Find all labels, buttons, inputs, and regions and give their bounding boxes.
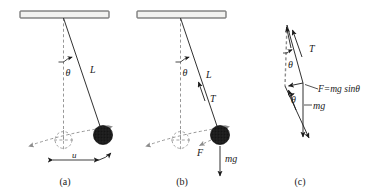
length-label-b: L bbox=[205, 69, 212, 80]
pendulum-bob-a bbox=[93, 125, 112, 144]
panel-caption-b: (b) bbox=[176, 176, 188, 188]
pendulum-bob-b bbox=[210, 125, 229, 144]
ceiling-support-b bbox=[137, 11, 226, 18]
restoring-force-label-b: F bbox=[196, 147, 204, 158]
swing-arc-arrow-left-a bbox=[29, 145, 33, 146]
angle-arc-b bbox=[181, 57, 190, 62]
panel-caption-a: (a) bbox=[59, 176, 70, 188]
angle-label-upper-c: θ bbox=[288, 59, 293, 70]
figure-canvas: θ L u (a) θ L T bbox=[0, 0, 379, 196]
restoring-force-vector-b bbox=[200, 140, 212, 146]
angle-label-b: θ bbox=[183, 67, 188, 78]
amplitude-curve-a bbox=[99, 153, 111, 160]
angle-arc-a bbox=[64, 57, 73, 62]
panel-caption-c: (c) bbox=[294, 176, 305, 188]
amplitude-label-a: u bbox=[72, 150, 77, 160]
tension-vector-b bbox=[199, 82, 206, 101]
weight-label-b: mg bbox=[225, 153, 237, 164]
force-equation-label-c: F=mg sinθ bbox=[317, 84, 360, 94]
length-label-a: L bbox=[89, 64, 96, 75]
panel-c: T θ θ F=mg sinθ mg (c) bbox=[283, 25, 360, 188]
angle-label-lower-c: θ bbox=[291, 94, 296, 105]
restoring-force-vector-c bbox=[289, 83, 304, 86]
triangle-left-side-c bbox=[285, 25, 287, 86]
force-equation-leader-c bbox=[305, 85, 318, 90]
ceiling-support-a bbox=[20, 11, 109, 18]
angle-label-a: θ bbox=[66, 67, 71, 78]
swing-arc-arrow-left-b bbox=[146, 145, 150, 146]
tension-label-c: T bbox=[309, 43, 316, 54]
tension-label-b: T bbox=[210, 93, 217, 104]
weight-label-c: mg bbox=[313, 100, 325, 111]
panel-b: θ L T F mg (b) bbox=[137, 11, 237, 188]
resultant-side-c bbox=[285, 86, 309, 138]
panel-a: θ L u (a) bbox=[20, 11, 113, 188]
tension-vector-c bbox=[293, 30, 303, 57]
pendulum-figure: θ L u (a) θ L T bbox=[0, 0, 379, 196]
angle-arc-upper-c bbox=[287, 50, 292, 53]
